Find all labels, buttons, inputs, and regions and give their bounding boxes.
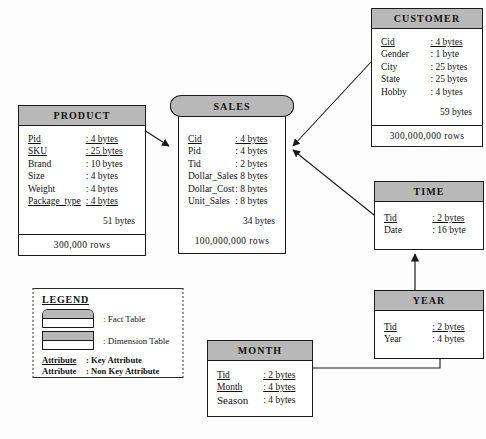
attribute-size: : 25 bytes [86,145,139,157]
attribute-row: Month : 4 bytes [208,381,312,393]
legend-row-key-attribute: Attribute : Key Attribute [42,355,176,366]
attribute-row: Cid : 4 bytes [372,36,482,48]
attribute-size: : 2 bytes [263,369,306,381]
attribute-size: : 4 bytes [430,86,476,98]
legend-row-fact: : Fact Table [42,309,176,328]
legend-nonkey-attr-desc: : Non Key Attribute [86,366,159,377]
schema-diagram-canvas: PRODUCT Pid : 4 bytes SKU : 25 bytes Bra… [0,0,486,439]
attribute-size: : 4 bytes [263,381,306,393]
attribute-row: Dollar_Cost : 8 bytes [179,183,285,195]
attribute-row: Date : 16 byte [375,224,483,236]
attribute-name: City [381,61,430,73]
entity-customer-attributes: Cid : 4 bytes Gender : 1 byte City : 25 … [372,29,482,125]
attribute-name: Tid [217,369,263,381]
entity-product-total-bytes: 51 bytes [19,207,145,230]
attribute-name: Year [384,333,432,345]
legend-nonkey-attr-sample: Attribute [42,366,86,377]
attribute-size: : 2 bytes [432,212,477,224]
entity-customer-total-bytes: 59 bytes [372,98,482,121]
attribute-name: Cid [188,133,235,145]
attribute-size: : 8 bytes [235,170,279,182]
attribute-size: : 25 bytes [430,61,476,73]
attribute-row: State : 25 bytes [372,73,482,85]
attribute-name: SKU [28,145,86,157]
entity-sales-title: SALES [170,95,294,117]
entity-sales-total-bytes: 34 bytes [179,207,285,230]
link-customer-sales [293,62,371,146]
attribute-name: Weight [28,183,86,195]
legend-row-nonkey-attribute: Attribute : Non Key Attribute [42,366,176,377]
attribute-row: Brand : 10 bytes [19,158,145,170]
attribute-name: State [381,73,430,85]
legend-title: LEGEND [42,294,176,305]
attribute-name: Dollar_Cost [188,183,235,195]
attribute-name: Dollar_Sales [188,170,235,182]
attribute-row: Season : 4 bytes [208,394,312,406]
attribute-size: : 4 bytes [86,183,139,195]
attribute-name: Cid [381,36,430,48]
entity-month-title: MONTH [208,341,312,361]
attribute-size: : 2 bytes [235,158,279,170]
attribute-row: City : 25 bytes [372,61,482,73]
entity-customer-title: CUSTOMER [372,9,482,29]
attribute-row: Size : 4 bytes [19,170,145,182]
attribute-name: Date [384,224,432,236]
attribute-size: : 8 bytes [235,195,279,207]
attribute-row: Gender : 1 byte [372,48,482,60]
entity-time[interactable]: TIME Tid : 2 bytes Date : 16 byte [374,181,484,250]
attribute-row: Unit_Sales : 8 bytes [179,195,285,207]
attribute-size: : 4 bytes [235,133,279,145]
entity-year-attributes: Tid : 2 bytes Year : 4 bytes [375,311,483,358]
entity-sales-body: Cid : 4 bytes Pid : 4 bytes Tid : 2 byte… [178,109,286,254]
entity-product-rowcount: 300,000 rows [19,234,145,255]
attribute-size: : 10 bytes [86,158,139,170]
attribute-size: : 4 bytes [263,394,306,406]
attribute-name: Tid [384,212,432,224]
legend-box: LEGEND : Fact Table : Dimension Table At… [32,288,184,378]
attribute-row: Pid : 4 bytes [179,145,285,157]
attribute-row: Weight : 4 bytes [19,183,145,195]
attribute-row: Tid : 2 bytes [375,212,483,224]
attribute-row: Tid : 2 bytes [208,369,312,381]
attribute-row: Tid : 2 bytes [179,158,285,170]
entity-month[interactable]: MONTH Tid : 2 bytes Month : 4 bytes Seas… [207,340,313,417]
entity-customer-rowcount: 300,000,000 rows [372,125,482,146]
attribute-row: Tid : 2 bytes [375,321,483,333]
legend-fact-label: : Fact Table [103,314,145,324]
legend-row-dimension: : Dimension Table [42,331,176,350]
attribute-size: : 16 byte [432,224,477,236]
entity-product[interactable]: PRODUCT Pid : 4 bytes SKU : 25 bytes Bra… [18,105,146,256]
entity-customer[interactable]: CUSTOMER Cid : 4 bytes Gender : 1 byte C… [371,8,483,147]
entity-year-title: YEAR [375,291,483,311]
entity-month-attributes: Tid : 2 bytes Month : 4 bytes Season : 4… [208,361,312,416]
attribute-name: Tid [384,321,432,333]
attribute-size: : 4 bytes [86,195,139,207]
entity-year[interactable]: YEAR Tid : 2 bytes Year : 4 bytes [374,290,484,359]
attribute-row: Pid : 4 bytes [19,133,145,145]
entity-product-title: PRODUCT [19,106,145,126]
legend-key-attr-sample: Attribute [42,355,86,366]
entity-sales-rowcount: 100,000,000 rows [179,234,285,253]
attribute-size: : 4 bytes [432,333,477,345]
attribute-row: Dollar_Sales : 8 bytes [179,170,285,182]
attribute-name: Month [217,381,263,393]
attribute-size: : 4 bytes [430,36,476,48]
attribute-size: : 2 bytes [432,321,477,333]
legend-attribute-conventions: Attribute : Key Attribute Attribute : No… [42,355,176,377]
attribute-name: Gender [381,48,430,60]
link-time-sales [293,150,374,215]
entity-product-attributes: Pid : 4 bytes SKU : 25 bytes Brand : 10 … [19,126,145,234]
attribute-name: Pid [188,145,235,157]
entity-sales-attributes: Cid : 4 bytes Pid : 4 bytes Tid : 2 byte… [179,130,285,234]
legend-key-attr-desc: : Key Attribute [86,355,142,366]
attribute-row: Package_type : 4 bytes [19,195,145,207]
attribute-row: Cid : 4 bytes [179,133,285,145]
attribute-size: : 4 bytes [86,133,139,145]
attribute-name: Pid [28,133,86,145]
attribute-size: : 8 bytes [235,183,279,195]
legend-dimension-label: : Dimension Table [103,336,169,346]
attribute-name: Package_type [28,195,86,207]
attribute-size: : 1 byte [430,48,476,60]
attribute-name: Hobby [381,86,430,98]
attribute-size: : 25 bytes [430,73,476,85]
